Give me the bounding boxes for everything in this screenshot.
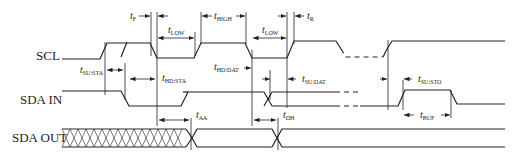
svg-text:tSU:DAT: tSU:DAT xyxy=(302,73,326,85)
param-tBUF: tBUF xyxy=(404,109,450,121)
svg-text:tHD:STA: tHD:STA xyxy=(162,72,187,84)
param-tAA: tAA xyxy=(159,109,208,121)
svg-text:tLOW: tLOW xyxy=(168,24,185,36)
param-tSU-STA: tSU:STA xyxy=(80,64,123,76)
param-tSU-STO: tSU:STO xyxy=(380,73,442,85)
param-tHD-DAT: tHD:DAT xyxy=(214,61,270,79)
svg-text:tDH: tDH xyxy=(283,109,295,121)
signal-label-sda-out: SDA OUT xyxy=(12,130,67,145)
svg-text:tSU:STO: tSU:STO xyxy=(418,73,442,85)
svg-text:tBUF: tBUF xyxy=(420,109,435,121)
svg-text:tHIGH: tHIGH xyxy=(214,10,232,22)
svg-text:tR: tR xyxy=(307,10,314,22)
param-tLOW-1: tLOW xyxy=(158,24,194,38)
svg-text:tHD:DAT: tHD:DAT xyxy=(214,61,239,73)
svg-text:tSU:STA: tSU:STA xyxy=(80,64,104,76)
param-tHD-STA: tHD:STA xyxy=(130,72,187,84)
signal-label-scl: SCL xyxy=(36,48,60,63)
param-tSU-DAT: tSU:DAT xyxy=(288,73,326,85)
svg-text:tLOW: tLOW xyxy=(262,24,279,36)
signal-label-sda-in: SDA IN xyxy=(20,92,63,107)
sda-in-waveform xyxy=(62,90,505,106)
param-tR: tR xyxy=(278,10,314,22)
param-tDH: tDH xyxy=(254,109,295,121)
scl-waveform xyxy=(62,41,505,59)
timing-diagram: SCL SDA IN SDA OUT xyxy=(0,0,520,161)
svg-text:tAA: tAA xyxy=(196,109,208,121)
param-tHIGH: tHIGH xyxy=(202,10,245,22)
param-tF: tF xyxy=(130,10,168,22)
sda-out-waveform xyxy=(62,129,505,147)
svg-text:tF: tF xyxy=(130,10,137,22)
param-tLOW-2: tLOW xyxy=(253,24,286,38)
